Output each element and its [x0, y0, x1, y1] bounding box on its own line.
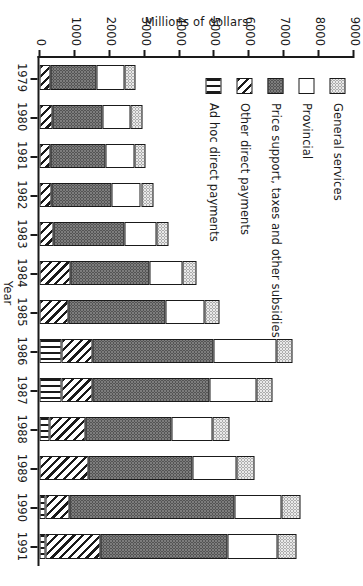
bar-segment — [49, 417, 84, 441]
bar-segment — [39, 183, 51, 207]
bar-segment — [51, 144, 105, 168]
bar-segment — [39, 300, 68, 324]
legend-item-label: General services — [330, 103, 344, 201]
bar-1982 — [39, 183, 153, 207]
bar-segment — [39, 378, 61, 402]
bar-segment — [111, 183, 141, 207]
category-tick — [30, 234, 37, 236]
rotated-chart-canvas: 0100020003000400050006000700080009000 Mi… — [0, 0, 363, 586]
bar-1986 — [39, 339, 292, 363]
bar-segment — [209, 378, 256, 402]
bar-1981 — [39, 144, 145, 168]
bar-segment — [102, 105, 130, 129]
bar-1989 — [39, 456, 254, 480]
legend-item-2[interactable]: Price support, taxes and other subsidies — [267, 78, 283, 338]
legend-item-0[interactable]: General services — [329, 78, 345, 338]
value-tick: 7000 — [282, 50, 284, 58]
legend-item-3[interactable]: Other direct payments — [236, 78, 252, 338]
bar-segment — [124, 65, 136, 89]
bar-segment — [156, 222, 169, 246]
bar-segment — [92, 378, 209, 402]
legend-swatch-icon — [267, 78, 283, 94]
bar-1988 — [39, 417, 229, 441]
bar-segment — [256, 378, 272, 402]
value-tick: 9000 — [352, 50, 354, 58]
bar-segment — [51, 183, 111, 207]
bar-1979 — [39, 65, 135, 89]
bar-1983 — [39, 222, 168, 246]
legend-item-1[interactable]: Provincial — [298, 78, 314, 338]
legend-item-label: Other direct payments — [237, 103, 251, 235]
bar-segment — [39, 261, 70, 285]
bar-segment — [52, 105, 103, 129]
bar-segment — [213, 339, 276, 363]
value-tick: 4000 — [178, 50, 180, 58]
category-tick — [30, 546, 37, 548]
bar-segment — [39, 534, 45, 558]
bar-segment — [51, 65, 96, 89]
bar-segment — [53, 222, 125, 246]
bar-segment — [124, 222, 155, 246]
bar-segment — [61, 339, 92, 363]
category-tick — [30, 273, 37, 275]
bar-segment — [68, 300, 166, 324]
bar-segment — [39, 495, 45, 519]
bar-segment — [45, 495, 69, 519]
bar-segment — [39, 456, 88, 480]
bar-segment — [134, 144, 146, 168]
category-tick-label: 1984 — [14, 253, 28, 293]
category-tick-label: 1990 — [14, 487, 28, 527]
category-tick — [30, 117, 37, 119]
bar-segment — [236, 456, 254, 480]
category-tick-label: 1979 — [14, 58, 28, 98]
legend-item-label: Price support, taxes and other subsidies — [268, 103, 282, 338]
bar-1984 — [39, 261, 196, 285]
bar-segment — [45, 534, 100, 558]
bar-1991 — [39, 534, 296, 558]
category-tick-label: 1989 — [14, 448, 28, 488]
bar-segment — [92, 339, 213, 363]
bar-segment — [39, 417, 49, 441]
category-tick — [30, 351, 37, 353]
legend-item-4[interactable]: Ad hoc direct payments — [205, 78, 221, 338]
category-tick-label: 1987 — [14, 370, 28, 410]
bar-segment — [234, 495, 281, 519]
value-tick: 3000 — [143, 50, 145, 58]
category-tick — [30, 156, 37, 158]
bar-segment — [39, 144, 51, 168]
bar-segment — [100, 534, 227, 558]
value-tick: 6000 — [247, 50, 249, 58]
bar-segment — [39, 65, 51, 89]
legend-swatch-icon — [236, 78, 252, 94]
category-tick-label: 1986 — [14, 331, 28, 371]
bar-segment — [69, 495, 234, 519]
category-tick-label: 1988 — [14, 409, 28, 449]
bar-segment — [88, 456, 193, 480]
category-axis-title: Year — [0, 0, 14, 586]
bar-segment — [141, 183, 153, 207]
value-axis-title: Millions of dollars — [39, 14, 353, 30]
bar-1990 — [39, 495, 300, 519]
legend-item-label: Ad hoc direct payments — [206, 103, 220, 242]
category-tick-label: 1991 — [14, 526, 28, 566]
bar-segment — [193, 456, 236, 480]
bar-segment — [130, 105, 142, 129]
category-tick — [30, 312, 37, 314]
category-tick — [30, 507, 37, 509]
category-tick-label: 1985 — [14, 292, 28, 332]
bar-segment — [70, 261, 149, 285]
category-tick — [30, 78, 37, 80]
bar-segment — [171, 417, 211, 441]
category-tick — [30, 390, 37, 392]
chart-legend: General servicesProvincialPrice support,… — [190, 78, 345, 338]
bar-segment — [85, 417, 172, 441]
bar-segment — [277, 534, 297, 558]
bar-1987 — [39, 378, 272, 402]
legend-item-label: Provincial — [299, 103, 313, 159]
category-tick-label: 1980 — [14, 97, 28, 137]
category-tick — [30, 429, 37, 431]
bar-segment — [212, 417, 229, 441]
bar-segment — [105, 144, 134, 168]
value-tick: 8000 — [317, 50, 319, 58]
value-tick: 1000 — [73, 50, 75, 58]
